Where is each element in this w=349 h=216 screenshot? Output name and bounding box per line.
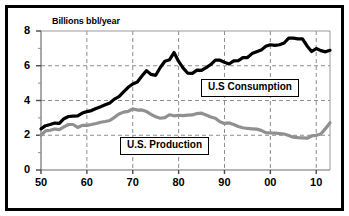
legend-label-consumption: U.S Consumption	[201, 79, 299, 97]
figure-container: Billions bbl/year 02468 50607080900010 U…	[0, 0, 349, 216]
x-tick-label: 70	[122, 176, 144, 188]
y-tick-label: 2	[14, 128, 30, 140]
x-tick-label: 10	[305, 176, 327, 188]
x-tick-label: 60	[76, 176, 98, 188]
x-tick-label: 50	[30, 176, 52, 188]
y-tick-label: 0	[14, 163, 30, 175]
legend-label-production: U.S. Production	[120, 137, 209, 155]
x-tick-label: 90	[213, 176, 235, 188]
y-tick-label: 6	[14, 59, 30, 71]
x-tick-label: 00	[259, 176, 281, 188]
y-tick-label: 8	[14, 24, 30, 36]
figure-border: Billions bbl/year 02468 50607080900010 U…	[5, 5, 344, 211]
y-tick-label: 4	[14, 94, 30, 106]
x-tick-label: 80	[168, 176, 190, 188]
